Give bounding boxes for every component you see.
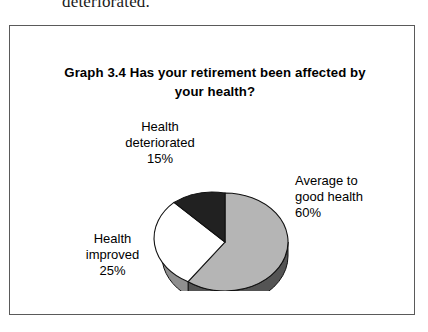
pie-label-health-improved: Health improved 25% [65, 231, 160, 279]
pie-label-average-good-health: Average to good health 60% [295, 173, 410, 221]
pie-label-health-deteriorated: Health deteriorated 15% [105, 119, 215, 167]
page-text-fragment-line: deteriorated. [62, 0, 150, 12]
pie-chart-graphic [145, 166, 305, 291]
pie-chart: Health deteriorated 15% Health improved … [10, 26, 416, 316]
page-text-fragment: deteriorated. [0, 0, 428, 14]
figure-frame: Graph 3.4 Has your retirement been affec… [9, 25, 415, 315]
